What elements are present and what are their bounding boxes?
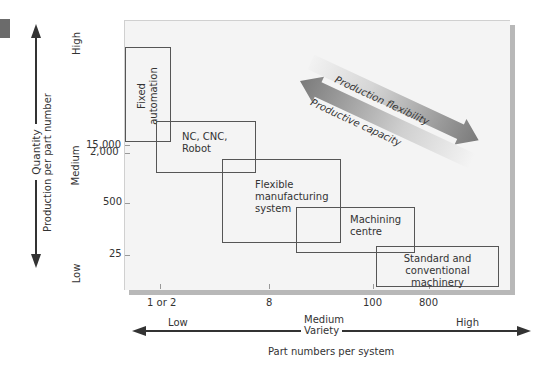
machining-centre-label: Machining centre — [350, 214, 401, 238]
y-level-medium: Medium — [70, 141, 81, 191]
standard-machinery-label: Standard and conventional machinery — [380, 253, 495, 289]
label-line: system — [255, 203, 291, 214]
label-line: NC, CNC, — [182, 131, 227, 142]
y-axis-line-bottom — [35, 180, 37, 256]
label-line: Flexible — [255, 179, 293, 190]
label-line: conventional machinery — [405, 265, 469, 288]
arrow-down-icon — [31, 254, 41, 268]
y-tick-2000: 2,000 — [90, 146, 119, 157]
variety-label: Variety — [301, 325, 342, 336]
quantity-label: Quantity — [30, 122, 42, 182]
x-level-high: High — [456, 317, 479, 328]
y-level-low: Low — [71, 254, 82, 294]
label-line: centre — [350, 226, 382, 237]
label-line: Fixed — [136, 83, 147, 109]
x-tick-8: 8 — [266, 297, 272, 308]
label-line: manufacturing — [255, 191, 329, 202]
x-tick-800: 800 — [419, 297, 438, 308]
y-tick-500: 500 — [103, 196, 122, 207]
label-line: Robot — [182, 143, 211, 154]
x-tick-1-or-2: 1 or 2 — [147, 297, 176, 308]
x-level-low: Low — [168, 317, 188, 328]
corner-marker — [0, 19, 10, 38]
label-line: automation — [148, 67, 159, 125]
arrow-right-icon — [517, 326, 531, 336]
nc-cnc-robot-label: NC, CNC, Robot — [182, 131, 227, 155]
y-tick-25: 25 — [109, 248, 122, 259]
label-line: Machining — [350, 214, 401, 225]
y-axis-title: Production per part number — [42, 88, 53, 238]
x-axis-title: Part numbers per system — [268, 346, 394, 357]
x-tick-100: 100 — [363, 297, 382, 308]
y-level-high: High — [71, 24, 82, 64]
label-line: Standard and — [404, 253, 472, 264]
y-axis-line-top — [35, 36, 37, 124]
x-level-medium: Medium — [304, 314, 344, 325]
